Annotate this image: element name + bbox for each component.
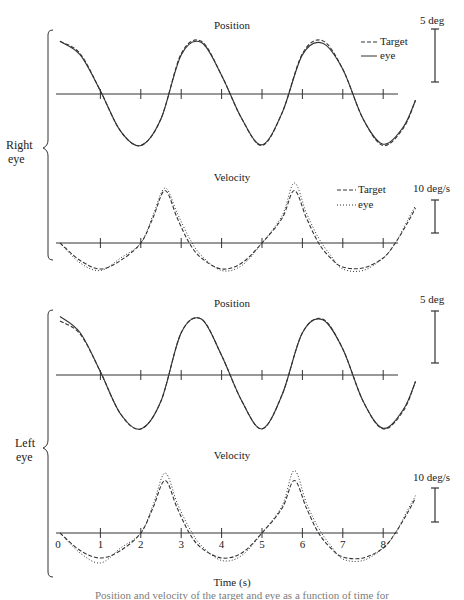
x-tick-label: 8 [380,538,386,550]
target-curve [60,481,416,559]
right-eye-bracket [43,30,53,260]
x-axis-label: Time (s) [213,576,251,589]
legend-target-label-vel: Target [358,183,386,195]
vel-scale-bar-left [431,488,439,522]
legend-eye-label-vel: eye [358,198,373,210]
x-tick-label: 0 [55,538,61,550]
target-curve [60,318,416,430]
pos-scale-bar-right [431,29,439,82]
left-eye-bracket [43,310,53,577]
pos-scale-label-right: 5 deg [420,14,445,26]
pos-scale-bar-left [431,311,439,363]
left-velocity-title: Velocity [214,449,251,461]
x-tick-label: 7 [340,538,346,550]
vel-scale-label-left: 10 deg/s [413,471,450,483]
x-tick-label: 4 [219,538,225,550]
x-tick-label: 1 [98,538,104,550]
x-tick-label: 6 [300,538,306,550]
right-position-title: Position [214,19,251,31]
x-tick-label: 3 [178,538,184,550]
position-legend: Target eye [361,35,408,61]
figure-caption: Position and velocity of the target and … [95,589,389,600]
right-eye-label-line2: eye [8,152,25,166]
x-tick-labels: 012345678 [55,538,386,550]
eye-curve [60,317,416,430]
left-eye-label-line1: Left [15,436,36,450]
velocity-legend: Target eye [337,183,386,210]
eye-curve [60,470,416,563]
figure: Right eye Left eye Position Velocity Pos… [0,0,464,600]
time-axes [56,89,398,538]
vel-scale-label-right: 10 deg/s [413,182,450,194]
x-tick-label: 2 [138,538,144,550]
right-velocity-title: Velocity [214,171,251,183]
left-position-title: Position [214,297,251,309]
legend-eye-label: eye [380,49,395,61]
vel-scale-bar-right [431,200,439,233]
x-tick-label: 5 [259,538,265,550]
eye-curve [60,183,416,271]
right-eye-label-line1: Right [6,138,33,152]
legend-target-label: Target [380,35,408,47]
pos-scale-label-left: 5 deg [420,293,445,305]
left-eye-label-line2: eye [16,450,33,464]
